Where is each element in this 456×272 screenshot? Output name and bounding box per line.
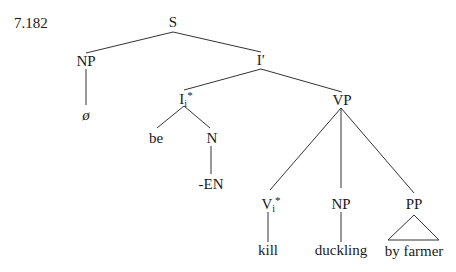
node-be: be bbox=[149, 131, 163, 146]
node-np-object: NP bbox=[331, 197, 350, 212]
node-vp: VP bbox=[332, 93, 351, 108]
node-i: Ii* bbox=[179, 92, 192, 107]
tree-branches bbox=[0, 0, 456, 272]
node-pp: PP bbox=[406, 197, 423, 212]
node-n: N bbox=[207, 131, 218, 146]
node-i-bar: I′ bbox=[257, 53, 265, 68]
node-np-subject: NP bbox=[76, 54, 95, 69]
node-v: Vi* bbox=[261, 197, 280, 212]
node-null-subject: ø bbox=[82, 108, 90, 123]
node-en: -EN bbox=[199, 177, 224, 192]
example-number: 7.182 bbox=[14, 16, 48, 31]
leaf-kill: kill bbox=[258, 243, 278, 258]
leaf-by-farmer: by farmer bbox=[385, 244, 444, 259]
node-s: S bbox=[169, 15, 177, 30]
leaf-duckling: duckling bbox=[315, 243, 368, 258]
